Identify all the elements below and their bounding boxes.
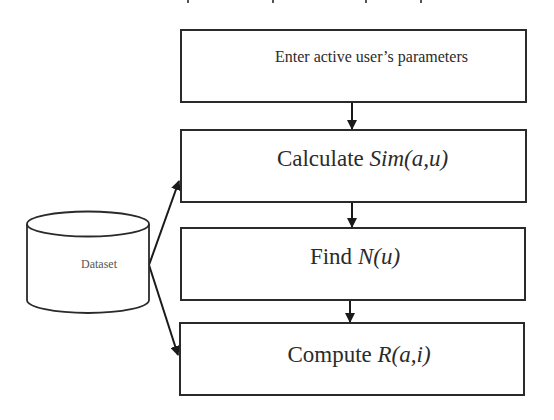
- arrow-dataset-to-step2: [149, 181, 179, 265]
- step-compute-rating: Compute R(a,i): [179, 322, 525, 396]
- step-find-neighbors-label: Find N(u): [182, 244, 524, 270]
- step-text: Enter active user’s parameters: [275, 48, 468, 65]
- arrow-dataset-to-step4: [149, 265, 178, 355]
- cropped-caption-fragment: [187, 0, 422, 3]
- step-compute-rating-label: Compute R(a,i): [181, 342, 523, 368]
- step-math: Sim(a,u): [370, 146, 449, 171]
- step-text: Find: [310, 244, 358, 269]
- step-find-neighbors: Find N(u): [180, 227, 526, 301]
- step-enter-parameters-label: Enter active user’s parameters: [182, 48, 525, 66]
- step-enter-parameters: Enter active user’s parameters: [180, 29, 527, 103]
- step-calculate-sim: Calculate Sim(a,u): [180, 129, 527, 203]
- step-math: N(u): [358, 244, 400, 269]
- dataset-label: Dataset: [81, 257, 117, 272]
- step-text: Calculate: [277, 146, 370, 171]
- step-calculate-sim-label: Calculate Sim(a,u): [182, 146, 525, 172]
- flowchart-diagram: Enter active user’s parameters Calculate…: [0, 0, 554, 420]
- step-math: R(a,i): [378, 342, 431, 367]
- step-text: Compute: [287, 342, 377, 367]
